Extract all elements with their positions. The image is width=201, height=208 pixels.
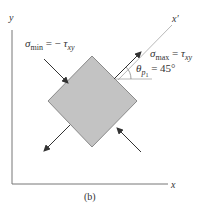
angle-arc xyxy=(126,67,131,79)
x-prime-axis-label: x′ xyxy=(171,13,179,24)
tension-arrow-bottom-left xyxy=(44,125,70,151)
sigma-max-label: σmax = τxy xyxy=(150,47,192,62)
x-axis-label: x xyxy=(170,179,176,190)
compression-arrow-bottom-right xyxy=(117,128,141,152)
y-axis-label: y xyxy=(8,12,14,23)
theta-label: θp1 = 45° xyxy=(136,62,176,78)
stress-element-diagram: y x x′ σmin = − τxy σmax = τxy θp1 = 45°… xyxy=(0,0,201,208)
figure-caption: (b) xyxy=(84,191,96,203)
sigma-min-label: σmin = − τxy xyxy=(25,37,75,52)
compression-arrow-top-left xyxy=(44,59,68,83)
